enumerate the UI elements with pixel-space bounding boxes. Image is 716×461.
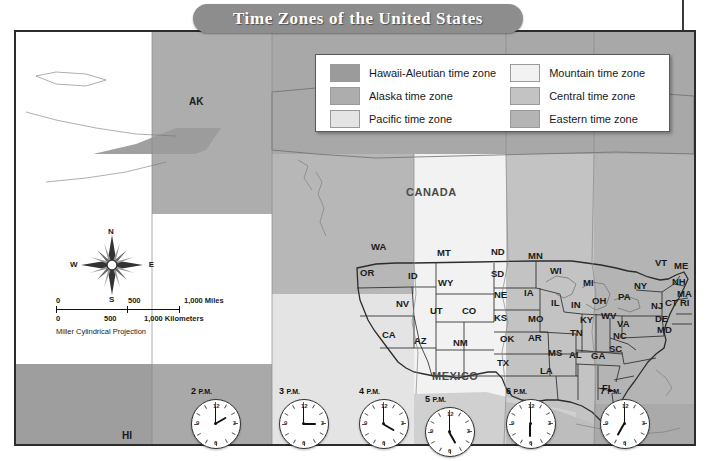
state-label-co: CO xyxy=(462,305,476,316)
state-label-sc: SC xyxy=(609,343,622,354)
legend-swatch-alaska xyxy=(330,87,360,105)
map-legend: Hawaii-Aleutian time zone Alaska time zo… xyxy=(315,54,670,132)
state-label-tn: TN xyxy=(570,327,583,338)
clock-time-label-2pm: 2 P.M. xyxy=(191,386,212,396)
state-label-wi: WI xyxy=(550,265,562,276)
clock-tick xyxy=(640,412,644,415)
clock-numeral-3: 3 xyxy=(467,428,470,434)
scale-miles-end: 1,000 Miles xyxy=(184,296,224,305)
clock-numeral-9: 9 xyxy=(196,420,199,426)
clock-tick xyxy=(284,413,288,416)
clock-tick xyxy=(393,439,396,443)
clock-numeral-3: 3 xyxy=(548,420,551,426)
clock-numeral-3: 3 xyxy=(321,420,324,426)
legend-item-eastern: Eastern time zone xyxy=(510,109,669,130)
legend-label-hawaii-aleutian: Hawaii-Aleutian time zone xyxy=(369,67,496,79)
clock-tick xyxy=(539,404,542,408)
map-title-banner: Time Zones of the United States xyxy=(193,4,523,33)
state-label-la: LA xyxy=(540,365,553,376)
state-label-ga: GA xyxy=(591,350,605,361)
clock-time-label-3pm: 3 P.M. xyxy=(279,386,300,396)
clock-numeral-9: 9 xyxy=(511,420,514,426)
clock-face-3pm: 12369 xyxy=(279,399,329,449)
compass-label-north: N xyxy=(108,227,114,236)
clock-face-7pm: 12369 xyxy=(600,399,650,449)
state-label-mn: MN xyxy=(528,250,543,261)
clock-numeral-9: 9 xyxy=(364,420,367,426)
scale-miles-line xyxy=(56,306,180,313)
clock-tick xyxy=(614,440,617,444)
state-label-id: ID xyxy=(408,270,418,281)
clock-center-pin xyxy=(529,422,532,425)
state-label-ks: KS xyxy=(494,312,507,323)
clock-tick xyxy=(313,439,316,443)
clock-tick xyxy=(430,421,434,424)
legend-swatch-pacific xyxy=(330,110,360,128)
clock-tick xyxy=(373,440,376,444)
scale-miles-labels: 0 500 1,000 Miles xyxy=(56,296,241,306)
state-label-nv: NV xyxy=(396,298,409,309)
clock-numeral-6: 6 xyxy=(214,440,217,446)
clock-numeral-9: 9 xyxy=(430,428,433,434)
clock-tick xyxy=(634,439,637,443)
state-label-ri: RI xyxy=(680,297,690,308)
clock-numeral-6: 6 xyxy=(302,440,305,446)
clock-tick xyxy=(466,440,470,443)
legend-item-hawaii-aleutian: Hawaii-Aleutian time zone xyxy=(330,62,496,83)
clock-tick xyxy=(319,412,323,415)
legend-column-left: Hawaii-Aleutian time zone Alaska time zo… xyxy=(316,61,496,131)
legend-item-central: Central time zone xyxy=(510,85,669,106)
state-label-vt: VT xyxy=(655,257,667,268)
clock-tick xyxy=(399,412,403,415)
state-label-oh: OH xyxy=(592,295,606,306)
region-label-hi: HI xyxy=(122,430,132,441)
state-label-ky: KY xyxy=(580,314,593,325)
legend-label-pacific: Pacific time zone xyxy=(369,113,452,125)
scale-km-labels: 0 500 1,000 Kilometers xyxy=(56,314,241,324)
clock-tick xyxy=(511,413,515,416)
clock-numeral-9: 9 xyxy=(284,420,287,426)
clock-tick xyxy=(285,433,289,436)
scale-miles-mid: 500 xyxy=(128,296,141,305)
legend-label-eastern: Eastern time zone xyxy=(549,113,638,125)
state-label-mo: MO xyxy=(528,313,543,324)
country-label-canada: CANADA xyxy=(406,186,457,198)
clock-time-label-4pm: 4 P.M. xyxy=(359,386,380,396)
clock-tick xyxy=(232,432,236,435)
compass-label-east: E xyxy=(149,260,154,269)
scale-km-end: 1,000 Kilometers xyxy=(144,314,204,323)
legend-swatch-mountain xyxy=(510,64,540,82)
clock-tick xyxy=(320,432,324,435)
clock-time-label-6pm: 6 P.M. xyxy=(506,386,527,396)
legend-item-mountain: Mountain time zone xyxy=(510,62,669,83)
clock-tick xyxy=(231,412,235,415)
state-label-nh: NH xyxy=(672,276,686,287)
legend-label-central: Central time zone xyxy=(549,90,635,102)
scale-km-mid: 500 xyxy=(104,314,117,323)
clock-numeral-6: 6 xyxy=(448,448,451,454)
state-label-nj: NJ xyxy=(651,300,663,311)
clock-time-label-5pm: 5 P.M. xyxy=(425,394,446,404)
compass-rose-icon xyxy=(70,228,154,302)
state-label-pa: PA xyxy=(618,291,631,302)
state-label-in: IN xyxy=(571,299,581,310)
map-projection-label: Miller Cylindrical Projection xyxy=(56,327,241,336)
scale-km-zero: 0 xyxy=(56,314,60,323)
clock-numeral-6: 6 xyxy=(529,440,532,446)
clock-tick xyxy=(633,404,636,408)
state-label-ia: IA xyxy=(524,287,534,298)
state-label-wv: WV xyxy=(601,310,616,321)
map-scale-bar: 0 500 1,000 Miles 0 500 1,000 Kilometers… xyxy=(56,296,241,336)
state-label-ut: UT xyxy=(430,305,443,316)
legend-label-mountain: Mountain time zone xyxy=(549,67,645,79)
clock-center-pin xyxy=(382,422,385,425)
state-label-il: IL xyxy=(551,297,559,308)
clock-numeral-3: 3 xyxy=(233,420,236,426)
clock-hour-hand xyxy=(448,432,456,444)
state-label-ny: NY xyxy=(634,280,647,291)
clock-tick xyxy=(431,441,435,444)
legend-item-pacific: Pacific time zone xyxy=(330,109,496,130)
state-label-al: AL xyxy=(569,349,582,360)
state-label-ms: MS xyxy=(548,347,562,358)
clock-center-pin xyxy=(448,430,451,433)
